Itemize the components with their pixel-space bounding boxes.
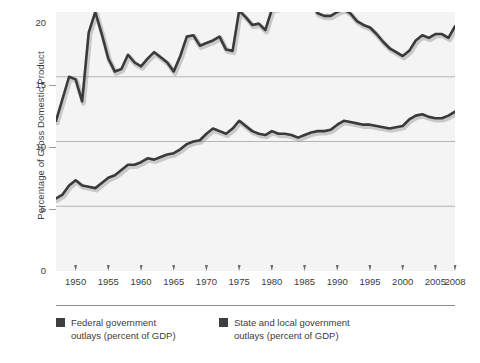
legend-item-federal: Federal government outlays (percent of G…: [56, 316, 176, 342]
plot-area: [56, 12, 455, 271]
legend-label-federal: Federal government outlays (percent of G…: [71, 316, 176, 342]
y-tick-label-15: 15: [12, 80, 46, 90]
plot-svg: [56, 12, 455, 271]
y-axis-title: Percentage of Gross Domestic Product: [35, 6, 46, 266]
y-tick-dash-5: [49, 209, 56, 210]
y-tick-label-5: 5: [12, 204, 46, 214]
y-tick-dash-15: [49, 85, 56, 86]
x-tick-label-2008: 2008: [435, 276, 475, 287]
series-lines: [56, 12, 455, 200]
chart-figure: Percentage of Gross Domestic Product 20 …: [0, 0, 480, 363]
legend-swatch-state-local: [219, 318, 228, 327]
legend-label-state-local: State and local government outlays (perc…: [234, 316, 350, 342]
y-tick-dash-10: [49, 147, 56, 148]
y-tick-label-20: 20: [12, 18, 46, 28]
legend-swatch-federal: [56, 318, 65, 327]
legend-item-state-local: State and local government outlays (perc…: [219, 316, 350, 342]
series-shadow-0: [57, 12, 455, 123]
legend-divider: [56, 305, 455, 306]
y-tick-label-0: 0: [12, 266, 46, 276]
line-state-local-outlays: [56, 112, 455, 199]
y-tick-label-10: 10: [12, 142, 46, 152]
gridlines: [56, 77, 455, 207]
